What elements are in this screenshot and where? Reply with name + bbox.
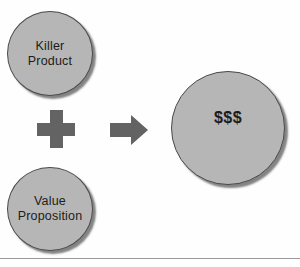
node-money[interactable]: $$$	[171, 71, 285, 185]
node-money-label: $$$	[214, 109, 242, 128]
plus-operator-icon	[37, 110, 75, 148]
node-killer-product[interactable]: Killer Product	[7, 11, 93, 96]
node-killer-product-label: Killer Product	[28, 39, 72, 69]
node-value-proposition-label: Value Proposition	[18, 194, 83, 224]
diagram-canvas: Killer Product Value Proposition $$$	[0, 0, 300, 267]
plus-vertical-bar	[50, 110, 63, 148]
node-value-proposition[interactable]: Value Proposition	[7, 167, 93, 251]
right-arrow-icon	[110, 114, 148, 146]
bottom-divider	[0, 258, 300, 259]
